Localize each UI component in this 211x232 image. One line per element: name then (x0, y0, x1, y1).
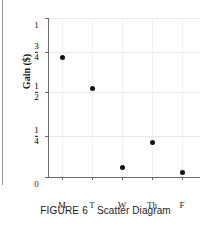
x-tick-mark-M (62, 177, 63, 180)
data-point-Th[interactable] (150, 140, 155, 145)
y-tick-mark-0 (45, 177, 48, 178)
page-edge-rule (2, 0, 3, 185)
x-tick-mark-Th (152, 177, 153, 180)
fraction-numerator: 1 (33, 126, 40, 135)
fraction-denominator: 4 (33, 53, 40, 62)
x-axis-line (48, 177, 200, 178)
gridline-horizontal-one-half (49, 92, 200, 93)
y-tick-label-1: 1 (28, 18, 45, 36)
gridline-horizontal-1 (49, 18, 200, 19)
data-point-F[interactable] (180, 170, 185, 175)
fraction-denominator: 2 (33, 93, 40, 102)
y-tick-label-three-quarters: 3 4 (28, 52, 45, 74)
y-tick-label-0: 0 (28, 177, 45, 195)
data-point-W[interactable] (120, 165, 125, 170)
fraction-one-half: 1 2 (33, 82, 40, 102)
gridline-vertical-T (92, 18, 93, 177)
fraction-denominator: 4 (33, 137, 40, 146)
data-point-M[interactable] (60, 55, 65, 60)
x-tick-mark-T (92, 177, 93, 180)
fraction-numerator: 3 (33, 42, 40, 51)
y-axis-line (48, 18, 49, 177)
y-tick-mark-one-half (45, 92, 48, 93)
figure-caption: FIGURE 6Scatter Diagram (0, 205, 211, 216)
y-tick-mark-one-quarter (45, 136, 48, 137)
y-tick-text: 1 (34, 21, 39, 30)
figure-container: Gain ($) 1 3 4 1 2 1 4 0 (0, 0, 211, 232)
x-tick-mark-W (122, 177, 123, 180)
y-tick-label-one-half: 1 2 (28, 92, 45, 114)
figure-number: FIGURE 6 (40, 205, 88, 216)
gridline-vertical-F (182, 18, 183, 177)
y-tick-label-one-quarter: 1 4 (28, 136, 45, 158)
gridline-horizontal-three-quarters (49, 52, 200, 53)
fraction-three-quarters: 3 4 (33, 42, 40, 62)
fraction-numerator: 1 (33, 82, 40, 91)
gridline-vertical-M (62, 18, 63, 177)
y-tick-mark-three-quarters (45, 52, 48, 53)
gridline-vertical-W (122, 18, 123, 177)
y-tick-mark-1 (45, 18, 48, 19)
y-tick-text: 0 (34, 180, 39, 189)
data-point-T[interactable] (90, 86, 95, 91)
gridline-horizontal-one-quarter (49, 136, 200, 137)
figure-title: Scatter Diagram (97, 205, 171, 216)
gridline-vertical-Th (152, 18, 153, 177)
x-tick-mark-F (182, 177, 183, 180)
plot-area: M T W Th F (48, 18, 200, 177)
fraction-one-quarter: 1 4 (33, 126, 40, 146)
